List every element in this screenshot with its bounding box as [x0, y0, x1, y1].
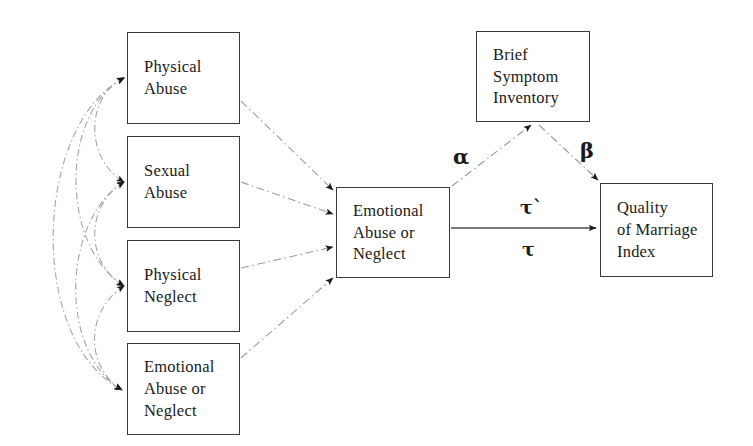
node-quality-of-marriage-index[interactable]: Quality of Marriage Index	[600, 183, 713, 277]
corr-physical-abuse-emotional	[53, 78, 124, 390]
node-brief-symptom-inventory-label: Brief Symptom Inventory	[477, 44, 559, 110]
node-sexual-abuse[interactable]: Sexual Abuse	[127, 136, 240, 228]
node-emotional-abuse-or-neglect-predictor-label: Emotional Abuse or Neglect	[128, 356, 215, 422]
path-label-tau-prime: τ`	[520, 198, 542, 217]
predictor-to-mediator-group	[241, 101, 333, 358]
path-label-beta: β	[580, 140, 594, 161]
node-physical-abuse[interactable]: Physical Abuse	[127, 32, 240, 124]
edge-physical-neglect-to-mediator	[241, 247, 333, 268]
node-emotional-abuse-or-neglect-mediator-label: Emotional Abuse or Neglect	[337, 200, 424, 266]
correlation-curve-group	[53, 78, 124, 390]
node-quality-of-marriage-index-label: Quality of Marriage Index	[601, 197, 698, 263]
node-sexual-abuse-label: Sexual Abuse	[128, 160, 190, 204]
edge-sexual-abuse-to-mediator	[241, 182, 333, 214]
corr-physical-abuse-physical-neglect	[76, 78, 124, 286]
node-physical-abuse-label: Physical Abuse	[128, 56, 202, 100]
node-brief-symptom-inventory[interactable]: Brief Symptom Inventory	[476, 31, 590, 122]
corr-sexual-abuse-emotional	[76, 182, 124, 390]
node-emotional-abuse-or-neglect-mediator[interactable]: Emotional Abuse or Neglect	[336, 187, 450, 278]
edge-emotional-x-to-mediator	[241, 278, 333, 358]
node-physical-neglect-label: Physical Neglect	[128, 264, 202, 308]
path-diagram: Physical Abuse Sexual Abuse Physical Neg…	[0, 0, 753, 446]
path-label-tau: τ	[522, 240, 535, 259]
corr-sexual-abuse-physical-neglect	[95, 182, 124, 286]
corr-physical-neglect-emotional	[94, 286, 124, 390]
path-label-alpha: α	[453, 146, 469, 167]
corr-physical-abuse-sexual-abuse	[95, 78, 124, 182]
node-physical-neglect[interactable]: Physical Neglect	[127, 240, 240, 332]
node-emotional-abuse-or-neglect-predictor[interactable]: Emotional Abuse or Neglect	[127, 343, 240, 435]
edge-physical-abuse-to-mediator	[241, 101, 333, 190]
